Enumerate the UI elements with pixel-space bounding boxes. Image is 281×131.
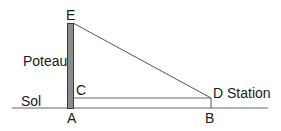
label-post: Poteau (23, 53, 67, 69)
label-d-station: D Station (213, 85, 271, 101)
label-b: B (205, 110, 214, 126)
segment-ed (73, 23, 211, 98)
label-e: E (66, 7, 75, 23)
label-c: C (76, 82, 86, 98)
label-a: A (67, 110, 77, 126)
post (68, 24, 74, 109)
label-ground: Sol (21, 93, 41, 109)
geometry-diagram: E Poteau C Sol A D Station B (0, 0, 281, 131)
